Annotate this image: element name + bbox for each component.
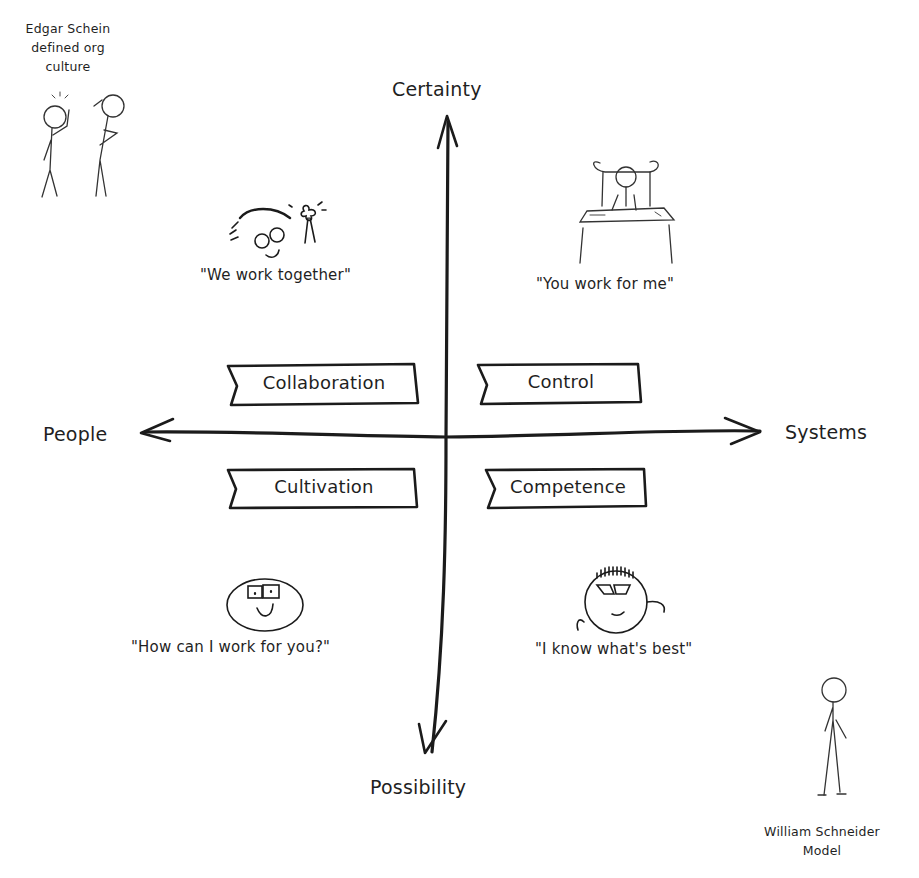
note-line: Model xyxy=(742,841,902,860)
diagram-canvas xyxy=(0,0,919,878)
note-line: culture xyxy=(18,57,118,76)
quadrant-label-control: Control xyxy=(482,371,640,392)
axis-label-top: Certainty xyxy=(392,78,482,100)
quadrant-label-cultivation: Cultivation xyxy=(232,476,416,497)
arrow-left-icon xyxy=(141,419,173,441)
note-line: Edgar Schein xyxy=(18,19,118,38)
quadrant-quote-collaboration: "We work together" xyxy=(200,266,351,284)
quadrant-label-collaboration: Collaboration xyxy=(232,372,416,393)
thinking-face-icon xyxy=(230,202,326,257)
axis-label-bottom: Possibility xyxy=(370,776,466,798)
thinking-stick-figure-icon xyxy=(818,678,846,795)
quadrant-quote-competence: "I know what's best" xyxy=(535,640,692,658)
quadrant-quote-cultivation: "How can I work for you?" xyxy=(131,638,330,656)
horizontal-axis xyxy=(141,418,760,444)
stick-figures-icon xyxy=(42,92,124,197)
smug-face-icon xyxy=(577,567,664,633)
vertical-axis xyxy=(419,116,457,753)
note-line: William Schneider xyxy=(742,822,902,841)
quadrant-quote-control: "You work for me" xyxy=(536,275,674,293)
note-william-schneider: William Schneider Model xyxy=(742,822,902,860)
smiling-face-icon xyxy=(227,579,303,631)
note-edgar-schein: Edgar Schein defined org culture xyxy=(18,19,118,76)
axis-label-right: Systems xyxy=(785,421,867,443)
person-at-desk-icon xyxy=(580,161,674,263)
note-line: defined org xyxy=(18,38,118,57)
axis-label-left: People xyxy=(43,423,107,445)
quadrant-label-competence: Competence xyxy=(490,476,646,497)
